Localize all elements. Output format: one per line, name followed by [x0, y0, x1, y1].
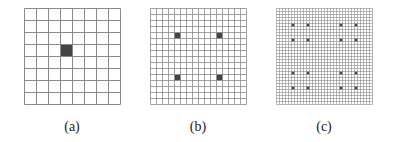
filled-cell — [340, 24, 343, 27]
filled-cell — [61, 45, 73, 57]
filled-cell — [340, 87, 343, 90]
caption-b: (b) — [168, 119, 228, 135]
filled-cell — [175, 33, 181, 39]
filled-cell — [307, 72, 310, 75]
filled-cell — [307, 39, 310, 42]
filled-cell — [292, 87, 295, 90]
grid-panel-a — [24, 8, 121, 105]
filled-cell — [292, 24, 295, 27]
grid-a — [24, 8, 121, 105]
filled-cell — [340, 39, 343, 42]
filled-cell — [217, 75, 223, 81]
grid-b — [150, 8, 247, 105]
grid-panel-b — [150, 8, 247, 105]
filled-cell — [217, 33, 223, 39]
caption-c: (c) — [294, 119, 354, 135]
filled-cell — [355, 24, 358, 27]
filled-cell — [355, 72, 358, 75]
grid-c — [276, 8, 373, 105]
filled-cell — [292, 39, 295, 42]
filled-cell — [340, 72, 343, 75]
filled-cell — [355, 39, 358, 42]
filled-cell — [307, 24, 310, 27]
filled-cell — [292, 72, 295, 75]
filled-cell — [307, 87, 310, 90]
caption-a: (a) — [42, 119, 102, 135]
grid-panel-c — [276, 8, 373, 105]
filled-cell — [355, 87, 358, 90]
filled-cell — [175, 75, 181, 81]
